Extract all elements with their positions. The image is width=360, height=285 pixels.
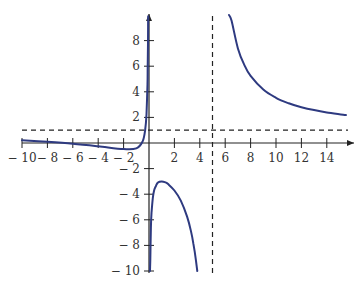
x-axis-arrow-icon [347, 140, 354, 146]
right-branch [229, 15, 346, 115]
x-tick-label: − 4 [87, 151, 109, 165]
y-tick-label: − 4 [118, 187, 140, 201]
y-tick-label: 8 [132, 34, 140, 48]
x-tick-label: 8 [247, 151, 255, 165]
y-tick-label: − 10 [111, 264, 140, 278]
middle-branch [150, 181, 197, 271]
y-tick-label: − 6 [118, 213, 140, 227]
x-tick-label: 14 [319, 151, 335, 165]
x-tick-label: − 8 [37, 151, 59, 165]
x-tick-label: 2 [171, 151, 179, 165]
x-tick-label: 12 [294, 151, 309, 165]
y-tick-label: 2 [132, 110, 140, 124]
x-tick-label: 6 [221, 151, 229, 165]
left-branch [22, 16, 148, 149]
y-tick-label: − 8 [118, 238, 140, 252]
y-tick-label: − 2 [118, 162, 140, 176]
tick-labels: − 10− 8− 6− 4− 224681012148642− 2− 4− 6−… [7, 34, 334, 278]
y-tick-label: 4 [132, 85, 140, 99]
x-tick-label: − 6 [62, 151, 84, 165]
function-graph: − 10− 8− 6− 4− 224681012148642− 2− 4− 6−… [0, 0, 360, 285]
x-tick-label: 10 [268, 151, 283, 165]
y-tick-label: 6 [132, 59, 140, 73]
x-tick-label: − 10 [7, 151, 36, 165]
x-tick-label: 4 [196, 151, 204, 165]
